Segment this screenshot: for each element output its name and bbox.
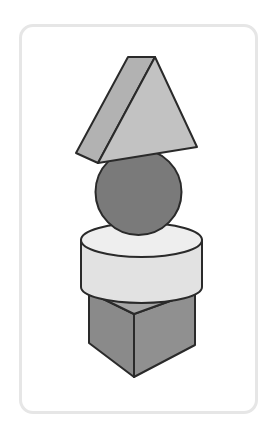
stacked-shapes-figure: [0, 0, 273, 431]
triangular-prism-shape: [76, 57, 197, 163]
